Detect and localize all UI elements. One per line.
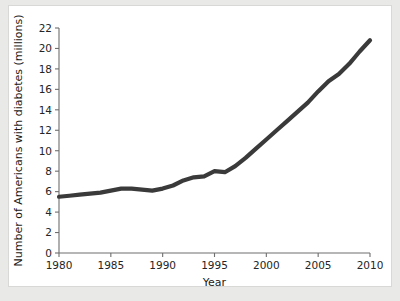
y-axis-tick-label: 8 xyxy=(45,165,52,177)
x-axis-tick-label: 1985 xyxy=(97,259,124,271)
figure-container: 0246810121416182022198019851990199520002… xyxy=(0,0,400,301)
x-axis-tick-label: 1990 xyxy=(149,259,176,271)
y-axis-tick-label: 18 xyxy=(39,63,52,75)
y-axis-tick-label: 16 xyxy=(39,83,53,95)
line-chart: 0246810121416182022198019851990199520002… xyxy=(0,0,400,301)
y-axis-tick-label: 22 xyxy=(39,22,52,34)
y-axis-tick-label: 0 xyxy=(45,247,52,259)
data-series-line xyxy=(59,40,370,196)
y-axis-title: Number of Americans with diabetes (milli… xyxy=(12,15,25,267)
x-axis-tick-label: 1995 xyxy=(201,259,228,271)
x-axis-tick-label: 2000 xyxy=(253,259,280,271)
y-axis-tick-label: 4 xyxy=(45,206,52,218)
x-axis-tick-label: 1980 xyxy=(46,259,73,271)
y-axis-tick-label: 6 xyxy=(45,185,52,197)
y-axis-tick-label: 12 xyxy=(39,124,52,136)
x-axis-tick-label: 2005 xyxy=(305,259,332,271)
y-axis-tick-label: 2 xyxy=(45,226,52,238)
y-axis-tick-label: 20 xyxy=(39,42,52,54)
y-axis-tick-label: 14 xyxy=(39,104,53,116)
x-axis-title: Year xyxy=(202,276,227,289)
x-axis-tick-label: 2010 xyxy=(357,259,384,271)
y-axis-tick-label: 10 xyxy=(39,145,52,157)
